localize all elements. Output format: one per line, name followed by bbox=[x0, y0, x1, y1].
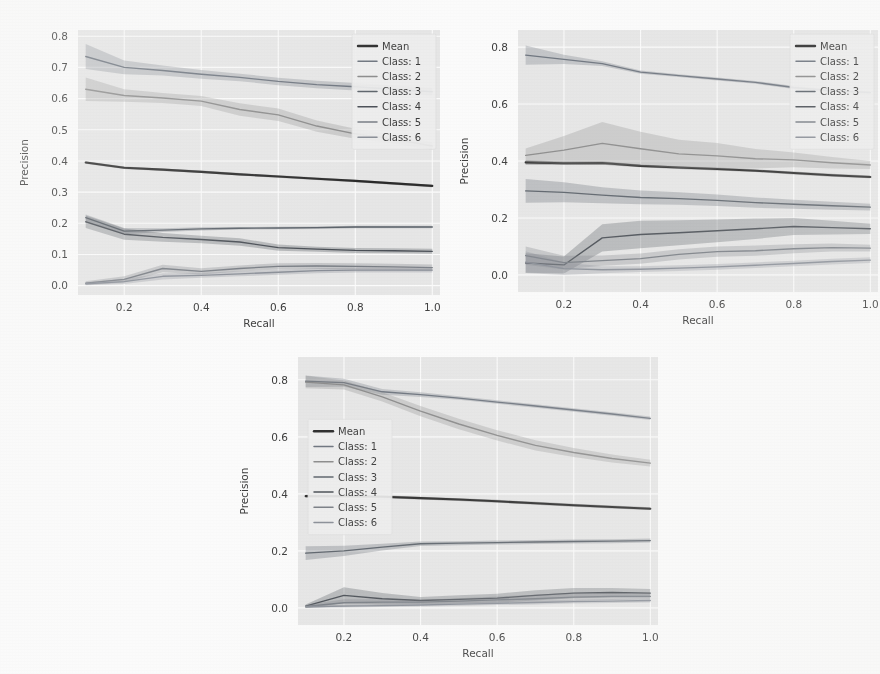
legend-label: Mean bbox=[820, 41, 847, 52]
legend-label: Class: 6 bbox=[338, 517, 377, 528]
legend-label: Mean bbox=[382, 41, 409, 52]
y-tick-label: 0.2 bbox=[491, 212, 508, 224]
legend-label: Class: 1 bbox=[820, 56, 859, 67]
panel-top-left: 0.20.40.60.81.00.00.10.20.30.40.50.60.70… bbox=[0, 0, 440, 335]
legend-label: Class: 1 bbox=[382, 56, 421, 67]
y-tick-label: 0.4 bbox=[491, 155, 508, 167]
legend-label: Class: 5 bbox=[382, 117, 421, 128]
legend-label: Class: 4 bbox=[382, 101, 421, 112]
y-tick-label: 0.8 bbox=[491, 41, 508, 53]
y-tick-label: 0.3 bbox=[51, 186, 68, 198]
y-tick-label: 0.7 bbox=[51, 61, 68, 73]
y-tick-label: 0.2 bbox=[51, 217, 68, 229]
plot-top-right: 0.20.40.60.81.00.00.20.40.60.8RecallPrec… bbox=[440, 0, 880, 335]
plot-top-left: 0.20.40.60.81.00.00.10.20.30.40.50.60.70… bbox=[0, 0, 440, 335]
legend: MeanClass: 1Class: 2Class: 3Class: 4Clas… bbox=[352, 34, 436, 149]
x-tick-label: 0.4 bbox=[632, 298, 649, 310]
y-axis-ticks: 0.00.20.40.60.8 bbox=[271, 374, 288, 614]
y-tick-label: 0.5 bbox=[51, 124, 68, 136]
x-axis-label: Recall bbox=[682, 314, 713, 326]
x-tick-label: 0.8 bbox=[347, 301, 364, 313]
y-tick-label: 0.0 bbox=[271, 602, 288, 614]
x-tick-label: 0.6 bbox=[489, 631, 506, 643]
y-tick-label: 0.2 bbox=[271, 545, 288, 557]
y-tick-label: 0.6 bbox=[491, 98, 508, 110]
y-tick-label: 0.6 bbox=[51, 92, 68, 104]
y-tick-label: 0.4 bbox=[271, 488, 288, 500]
legend-label: Mean bbox=[338, 426, 365, 437]
x-tick-label: 1.0 bbox=[642, 631, 659, 643]
y-axis-label: Precision bbox=[238, 468, 250, 515]
x-tick-label: 0.6 bbox=[709, 298, 726, 310]
y-axis-label: Precision bbox=[18, 139, 30, 186]
precision-recall-figure: 0.20.40.60.81.00.00.10.20.30.40.50.60.70… bbox=[0, 0, 880, 674]
legend-label: Class: 2 bbox=[820, 71, 859, 82]
panel-top-right: 0.20.40.60.81.00.00.20.40.60.8RecallPrec… bbox=[440, 0, 880, 335]
legend-label: Class: 6 bbox=[382, 132, 421, 143]
x-tick-label: 0.8 bbox=[785, 298, 802, 310]
legend-label: Class: 3 bbox=[338, 472, 377, 483]
legend-label: Class: 4 bbox=[338, 487, 377, 498]
y-tick-label: 0.8 bbox=[271, 374, 288, 386]
x-tick-label: 1.0 bbox=[424, 301, 440, 313]
x-tick-label: 0.6 bbox=[270, 301, 287, 313]
legend-label: Class: 5 bbox=[338, 502, 377, 513]
x-tick-label: 0.2 bbox=[556, 298, 573, 310]
x-axis-label: Recall bbox=[243, 317, 274, 329]
y-tick-label: 0.0 bbox=[491, 269, 508, 281]
y-tick-label: 0.1 bbox=[51, 248, 68, 260]
x-axis-ticks: 0.20.40.60.81.0 bbox=[116, 301, 440, 313]
x-tick-label: 1.0 bbox=[862, 298, 879, 310]
x-tick-label: 0.2 bbox=[336, 631, 353, 643]
legend-label: Class: 4 bbox=[820, 101, 859, 112]
y-axis-ticks: 0.00.20.40.60.8 bbox=[491, 41, 508, 281]
legend-label: Class: 6 bbox=[820, 132, 859, 143]
x-axis-ticks: 0.20.40.60.81.0 bbox=[556, 298, 879, 310]
y-tick-label: 0.8 bbox=[51, 30, 68, 42]
x-tick-label: 0.2 bbox=[116, 301, 133, 313]
plot-bottom-center: 0.20.40.60.81.00.00.20.40.60.8RecallPrec… bbox=[220, 335, 660, 674]
y-tick-label: 0.6 bbox=[271, 431, 288, 443]
legend-label: Class: 1 bbox=[338, 441, 377, 452]
x-tick-label: 0.4 bbox=[412, 631, 429, 643]
x-tick-label: 0.8 bbox=[565, 631, 582, 643]
legend-label: Class: 2 bbox=[338, 456, 377, 467]
legend-label: Class: 5 bbox=[820, 117, 859, 128]
legend-label: Class: 3 bbox=[382, 86, 421, 97]
y-axis-ticks: 0.00.10.20.30.40.50.60.70.8 bbox=[51, 30, 68, 291]
y-axis-label: Precision bbox=[458, 138, 470, 185]
x-axis-ticks: 0.20.40.60.81.0 bbox=[336, 631, 659, 643]
y-tick-label: 0.4 bbox=[51, 155, 68, 167]
legend: MeanClass: 1Class: 2Class: 3Class: 4Clas… bbox=[308, 419, 392, 534]
legend-label: Class: 2 bbox=[382, 71, 421, 82]
legend-label: Class: 3 bbox=[820, 86, 859, 97]
y-tick-label: 0.0 bbox=[51, 279, 68, 291]
x-axis-label: Recall bbox=[462, 647, 493, 659]
legend: MeanClass: 1Class: 2Class: 3Class: 4Clas… bbox=[790, 34, 874, 149]
x-tick-label: 0.4 bbox=[193, 301, 210, 313]
panel-bottom-center: 0.20.40.60.81.00.00.20.40.60.8RecallPrec… bbox=[220, 335, 660, 674]
